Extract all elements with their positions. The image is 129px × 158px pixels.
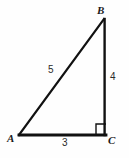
vertex-label-a: A: [7, 133, 14, 144]
triangle-side-hypotenuse: [19, 19, 104, 135]
side-length-label-vertical: 4: [110, 72, 116, 82]
triangle-figure: A B C 5 4 3: [0, 0, 129, 158]
vertex-label-c: C: [108, 135, 115, 146]
vertex-label-b: B: [97, 5, 104, 16]
side-length-label-base: 3: [62, 138, 68, 148]
side-length-label-hypotenuse: 5: [48, 65, 54, 75]
